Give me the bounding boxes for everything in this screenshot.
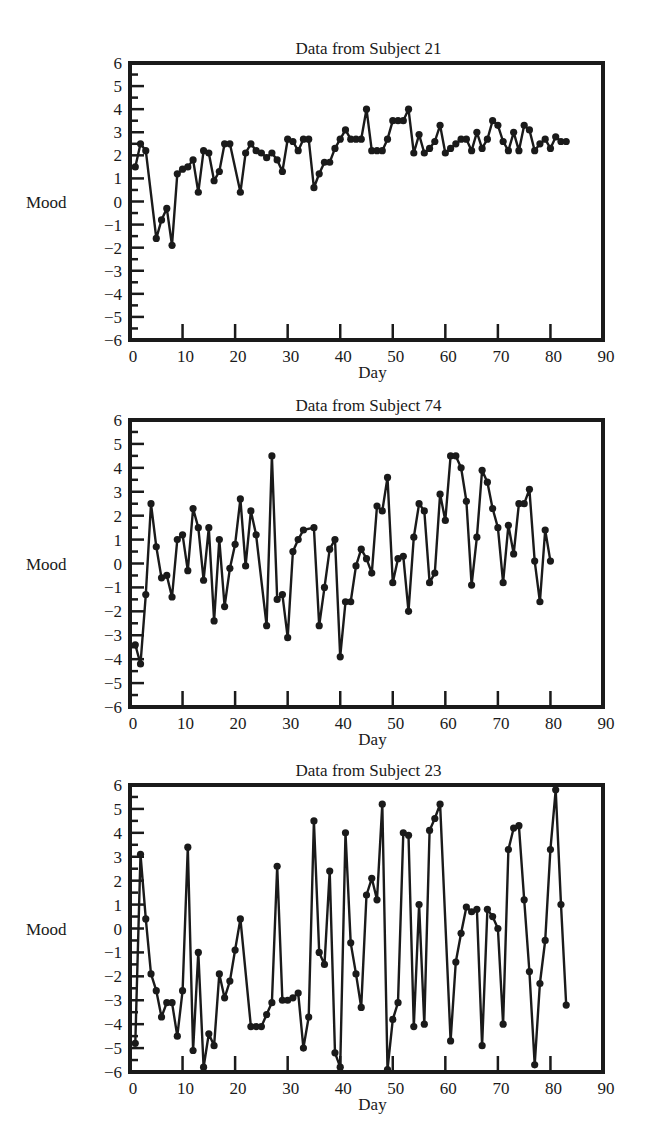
chart-subject-23: Data from Subject 236543210−1−2−3−4−5−60… xyxy=(0,0,646,1132)
chart-svg: Data from Subject 236543210−1−2−3−4−5−60… xyxy=(0,0,646,1132)
data-point xyxy=(337,1064,344,1071)
data-point xyxy=(237,915,244,922)
data-point xyxy=(305,1013,312,1020)
data-point xyxy=(494,925,501,932)
data-point xyxy=(363,891,370,898)
data-point xyxy=(452,958,459,965)
data-point xyxy=(137,851,144,858)
data-point xyxy=(205,1030,212,1037)
data-point xyxy=(226,978,233,985)
data-point xyxy=(147,970,154,977)
y-tick-label: −1 xyxy=(104,943,122,962)
data-point xyxy=(352,970,359,977)
x-tick-label: 50 xyxy=(387,1079,404,1098)
data-point xyxy=(458,930,465,937)
data-point xyxy=(258,1023,265,1030)
data-point xyxy=(132,1040,139,1047)
y-tick-label: 3 xyxy=(114,848,123,867)
data-point xyxy=(489,913,496,920)
chart-title: Data from Subject 23 xyxy=(296,761,442,780)
data-point xyxy=(389,1016,396,1023)
y-tick-label: −5 xyxy=(104,1039,122,1058)
y-tick-label: 6 xyxy=(114,776,123,795)
y-tick-label: −3 xyxy=(104,991,122,1010)
data-point xyxy=(195,949,202,956)
data-line xyxy=(135,790,566,1070)
data-point xyxy=(563,1001,570,1008)
data-point xyxy=(179,987,186,994)
data-point xyxy=(310,817,317,824)
data-point xyxy=(410,1023,417,1030)
y-tick-label: 4 xyxy=(114,824,123,843)
data-point xyxy=(153,987,160,994)
data-point xyxy=(295,989,302,996)
data-point xyxy=(184,844,191,851)
data-point xyxy=(415,901,422,908)
data-point xyxy=(358,1004,365,1011)
data-point xyxy=(505,846,512,853)
data-point xyxy=(421,1021,428,1028)
data-point xyxy=(531,1061,538,1068)
x-tick-label: 40 xyxy=(335,1079,352,1098)
y-tick-label: −2 xyxy=(104,967,122,986)
data-point xyxy=(426,827,433,834)
x-tick-label: 30 xyxy=(282,1079,299,1098)
data-point xyxy=(384,1066,391,1073)
y-axis-label: Mood xyxy=(26,920,67,939)
data-point xyxy=(500,1021,507,1028)
data-point xyxy=(536,980,543,987)
data-point xyxy=(515,822,522,829)
data-point xyxy=(431,815,438,822)
x-axis-label: Day xyxy=(358,1095,387,1114)
y-tick-label: −4 xyxy=(104,1015,123,1034)
data-point xyxy=(473,906,480,913)
data-point xyxy=(394,999,401,1006)
data-point xyxy=(436,801,443,808)
data-point xyxy=(547,846,554,853)
y-tick-label: −6 xyxy=(104,1063,122,1082)
x-tick-label: 90 xyxy=(598,1079,615,1098)
data-point xyxy=(168,999,175,1006)
data-point xyxy=(142,915,149,922)
data-point xyxy=(274,863,281,870)
data-point xyxy=(373,896,380,903)
data-point xyxy=(174,1033,181,1040)
y-tick-label: 5 xyxy=(114,800,123,819)
x-axis: 0102030405060708090 xyxy=(129,1056,615,1098)
x-tick-label: 70 xyxy=(492,1079,509,1098)
data-point xyxy=(542,937,549,944)
data-point xyxy=(347,939,354,946)
data-point xyxy=(521,896,528,903)
y-tick-label: 2 xyxy=(114,872,123,891)
data-point xyxy=(331,1049,338,1056)
x-tick-label: 20 xyxy=(230,1079,247,1098)
data-point xyxy=(263,1011,270,1018)
data-point xyxy=(552,786,559,793)
data-point xyxy=(342,829,349,836)
x-tick-label: 60 xyxy=(440,1079,457,1098)
data-point xyxy=(526,968,533,975)
data-point xyxy=(316,949,323,956)
data-point xyxy=(216,970,223,977)
data-point xyxy=(557,901,564,908)
data-point xyxy=(300,1044,307,1051)
data-point xyxy=(210,1042,217,1049)
y-tick-label: 1 xyxy=(114,896,123,915)
data-point xyxy=(268,999,275,1006)
data-point xyxy=(326,868,333,875)
data-point xyxy=(447,1037,454,1044)
data-point xyxy=(189,1047,196,1054)
x-tick-label: 10 xyxy=(177,1079,194,1098)
data-point xyxy=(221,994,228,1001)
data-point xyxy=(158,1013,165,1020)
x-tick-label: 80 xyxy=(545,1079,562,1098)
data-point xyxy=(200,1064,207,1071)
data-point xyxy=(405,832,412,839)
data-point xyxy=(484,906,491,913)
data-point xyxy=(321,961,328,968)
data-point xyxy=(379,801,386,808)
x-tick-label: 0 xyxy=(129,1079,138,1098)
y-tick-label: 0 xyxy=(114,920,123,939)
data-point xyxy=(368,875,375,882)
data-point xyxy=(232,946,239,953)
